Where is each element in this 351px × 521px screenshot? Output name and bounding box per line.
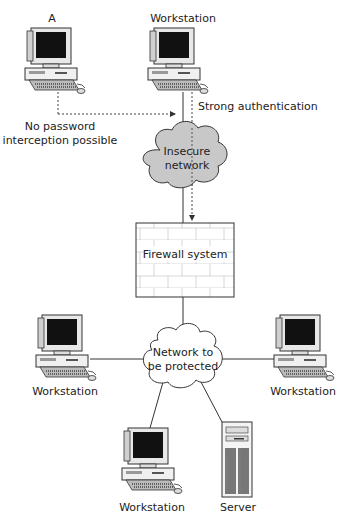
workstation-left-label: Workstation <box>32 385 98 398</box>
workstation-a: A <box>25 12 85 94</box>
workstation-icon <box>25 28 85 94</box>
server: Server <box>220 422 257 514</box>
insecure-network-cloud: Insecure network <box>143 121 227 187</box>
workstation-right-label: Workstation <box>270 385 336 398</box>
strong-authentication-annotation: Strong authentication <box>198 100 318 113</box>
insecure-network-label-line1: Insecure <box>164 145 211 158</box>
firewall-system: Firewall system <box>136 223 234 297</box>
workstation-left: Workstation <box>32 315 98 398</box>
protected-network-label-line2: be protected <box>148 360 218 373</box>
workstation-icon <box>122 428 182 494</box>
no-password-annotation-line1: No password <box>25 120 96 133</box>
edge-protected-to-server <box>201 382 222 422</box>
protected-network-cloud: Network to be protected <box>143 323 222 387</box>
firewall-label: Firewall system <box>143 248 228 261</box>
workstation-icon <box>36 315 96 381</box>
server-icon <box>222 422 252 497</box>
edge-protected-to-bottom-workstation <box>150 382 163 428</box>
workstation-a-label: A <box>48 12 56 25</box>
workstation-bottom-label: Workstation <box>119 501 185 514</box>
insecure-network-label-line2: network <box>165 159 210 172</box>
workstation-right: Workstation <box>270 315 336 398</box>
workstation-icon <box>148 28 208 94</box>
workstation-top-label: Workstation <box>150 12 216 25</box>
protected-network-label-line1: Network to <box>153 346 214 359</box>
edge-a-to-workstation <box>58 92 175 114</box>
no-password-annotation-line2: interception possible <box>3 134 118 147</box>
workstation-icon <box>274 315 334 381</box>
server-label: Server <box>220 501 257 514</box>
workstation-top: Workstation <box>148 12 216 94</box>
workstation-bottom: Workstation <box>119 428 185 514</box>
